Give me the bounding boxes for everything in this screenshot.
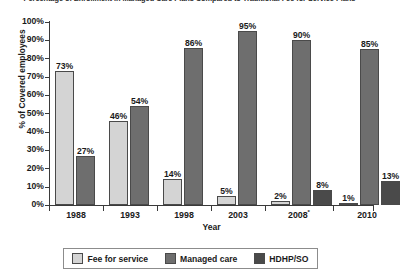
bar-value-label: 73%: [56, 62, 73, 71]
bar-value-label: 5%: [220, 187, 232, 196]
legend-label-hdhp-so: HDHP/SO: [269, 254, 308, 264]
chart-title: Percentage of Enrollment in Managed Care…: [0, 0, 379, 3]
x-tick-mark: [265, 206, 266, 211]
legend-item-hdhp-so: HDHP/SO: [254, 253, 308, 264]
bar-hdhp-so-2008: 8%: [313, 190, 332, 205]
bar-managed-care-2010: 85%: [360, 49, 379, 205]
y-tick-label-60: 60%: [14, 90, 44, 99]
y-tick-label-90: 90%: [14, 35, 44, 44]
bar-fee-for-service-2003: 5%: [217, 196, 236, 205]
bar-group-2010: 1% 85% 13%: [339, 22, 401, 205]
footnote-asterisk: *: [308, 209, 310, 215]
x-tick-label-2008: 2008*: [268, 210, 330, 220]
plot-area: 73% 27% 46% 54% 14% 86%: [49, 22, 373, 205]
x-tick-mark: [333, 206, 334, 211]
bar-managed-care-2003: 95%: [238, 31, 257, 205]
bar-value-label: 8%: [316, 181, 328, 190]
y-tick-label-20: 20%: [14, 164, 44, 173]
bar-value-label: 90%: [293, 31, 310, 40]
legend-item-fee-for-service: Fee for service: [72, 253, 148, 264]
bar-value-label: 85%: [361, 40, 378, 49]
bar-value-label: 2%: [274, 192, 286, 201]
bar-managed-care-1988: 27%: [76, 156, 95, 205]
bar-value-label: 95%: [239, 22, 256, 31]
x-tick-mark: [49, 206, 50, 211]
x-tick-label-1998: 1998: [160, 210, 208, 220]
y-axis-tick-labels: 100% 90% 80% 70% 60% 50% 40% 30% 20% 10%…: [14, 0, 44, 280]
x-axis-title: Year: [49, 222, 374, 232]
bar-group-1988: 73% 27%: [55, 22, 103, 205]
bar-value-label: 54%: [131, 97, 148, 106]
x-tick-mark: [211, 206, 212, 211]
legend-swatch-hdhp-so: [254, 253, 265, 264]
x-tick-mark: [103, 206, 104, 211]
bar-value-label: 46%: [110, 112, 127, 121]
bar-fee-for-service-2010: 1%: [339, 203, 358, 205]
bar-fee-for-service-1998: 14%: [163, 179, 182, 205]
bar-fee-for-service-1988: 73%: [55, 71, 74, 205]
bar-group-1993: 46% 54%: [109, 22, 157, 205]
bar-hdhp-so-2010: 13%: [381, 181, 400, 205]
y-tick-label-10: 10%: [14, 182, 44, 191]
bar-value-label: 86%: [185, 39, 202, 48]
y-tick-label-50: 50%: [14, 109, 44, 118]
bar-value-label: 13%: [382, 172, 399, 181]
bar-fee-for-service-2008: 2%: [271, 201, 290, 205]
bar-value-label: 27%: [77, 147, 94, 156]
bar-value-label: 1%: [342, 194, 354, 203]
bar-managed-care-1993: 54%: [130, 106, 149, 205]
bar-fee-for-service-1993: 46%: [109, 121, 128, 205]
bar-value-label: 14%: [164, 170, 181, 179]
bar-managed-care-2008: 90%: [292, 40, 311, 205]
x-tick-label-2010: 2010: [336, 210, 398, 220]
legend-label-fee-for-service: Fee for service: [87, 254, 148, 264]
bar-managed-care-1998: 86%: [184, 48, 203, 205]
y-tick-label-70: 70%: [14, 72, 44, 81]
legend-swatch-managed-care: [165, 253, 176, 264]
y-tick-label-30: 30%: [14, 145, 44, 154]
x-tick-label-1988: 1988: [52, 210, 100, 220]
bar-group-1998: 14% 86%: [163, 22, 211, 205]
x-tick-mark: [157, 206, 158, 211]
bar-group-2003: 5% 95%: [217, 22, 265, 205]
chart-legend: Fee for service Managed care HDHP/SO: [63, 248, 318, 269]
legend-item-managed-care: Managed care: [165, 253, 237, 264]
y-tick-label-40: 40%: [14, 127, 44, 136]
x-tick-label-2008-text: 2008: [288, 210, 308, 220]
y-tick-label-80: 80%: [14, 54, 44, 63]
legend-swatch-fee-for-service: [72, 253, 83, 264]
bar-group-2008: 2% 90% 8%: [271, 22, 333, 205]
y-tick-label-100: 100%: [14, 17, 44, 26]
x-tick-label-2003: 2003: [214, 210, 262, 220]
legend-label-managed-care: Managed care: [180, 254, 237, 264]
x-tick-label-1993: 1993: [106, 210, 154, 220]
